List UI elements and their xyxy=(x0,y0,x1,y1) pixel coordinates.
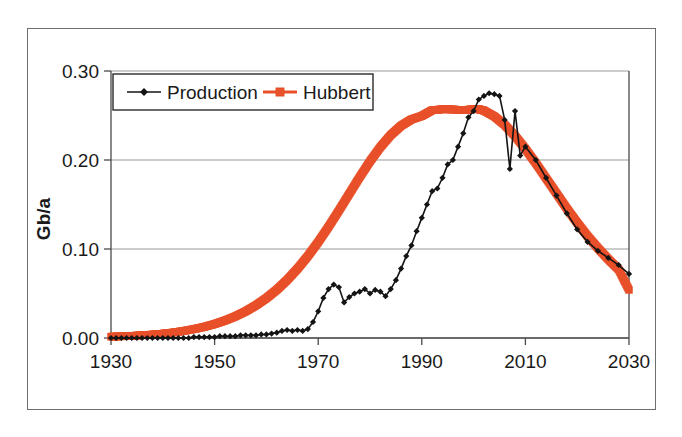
production-line xyxy=(111,93,629,338)
production-marker xyxy=(460,130,466,136)
production-marker xyxy=(279,328,285,334)
production-marker xyxy=(512,108,518,114)
production-marker xyxy=(398,265,404,271)
production-marker xyxy=(294,327,300,333)
production-marker xyxy=(357,289,363,295)
production-marker xyxy=(455,144,461,150)
x-tick-label: 1970 xyxy=(297,351,339,372)
y-tick-labels: 0.000.100.200.30 xyxy=(62,61,99,349)
production-marker xyxy=(496,93,502,99)
legend-marker-square xyxy=(276,88,285,97)
production-marker xyxy=(491,91,497,97)
production-marker xyxy=(408,242,414,248)
y-tick-label: 0.00 xyxy=(62,328,99,349)
y-axis-title: Gb/a xyxy=(33,197,54,240)
production-marker xyxy=(315,308,321,314)
production-marker xyxy=(186,335,192,341)
series-production xyxy=(108,90,632,341)
y-tick-label: 0.30 xyxy=(62,61,99,82)
hubbert-production-chart: 0.000.100.200.30 19301950197019902010203… xyxy=(28,29,657,411)
production-marker xyxy=(507,166,513,172)
axis-lines xyxy=(111,71,629,338)
production-marker xyxy=(486,90,492,96)
production-marker xyxy=(263,331,269,337)
x-tick-label: 1950 xyxy=(193,351,235,372)
tick-marks xyxy=(104,71,629,345)
x-tick-label: 2010 xyxy=(504,351,546,372)
hubbert-marker xyxy=(625,286,633,294)
production-marker xyxy=(268,330,274,336)
production-marker xyxy=(429,188,435,194)
legend-label-production: Production xyxy=(167,82,258,103)
production-marker xyxy=(284,327,290,333)
y-tick-label: 0.10 xyxy=(62,239,99,260)
production-marker xyxy=(434,185,440,191)
chart-legend[interactable]: ProductionHubbert xyxy=(113,74,373,110)
x-tick-label: 1990 xyxy=(401,351,443,372)
production-marker xyxy=(403,253,409,259)
production-marker xyxy=(274,330,280,336)
y-tick-label: 0.20 xyxy=(62,150,99,171)
legend-label-hubbert: Hubbert xyxy=(303,82,371,103)
series-hubbert xyxy=(107,105,633,340)
production-marker xyxy=(212,334,218,340)
production-marker xyxy=(414,228,420,234)
production-marker xyxy=(439,175,445,181)
x-tick-label: 1930 xyxy=(90,351,132,372)
figure-frame: 0.000.100.200.30 19301950197019902010203… xyxy=(27,28,656,410)
chart-page: 0.000.100.200.30 19301950197019902010203… xyxy=(0,0,682,437)
x-tick-labels: 193019501970199020102030 xyxy=(90,351,650,372)
gridlines xyxy=(111,71,629,338)
x-tick-label: 2030 xyxy=(608,351,650,372)
production-marker xyxy=(336,284,342,290)
production-marker xyxy=(300,328,306,334)
production-marker xyxy=(424,201,430,207)
production-marker xyxy=(289,328,295,334)
production-marker xyxy=(419,215,425,221)
